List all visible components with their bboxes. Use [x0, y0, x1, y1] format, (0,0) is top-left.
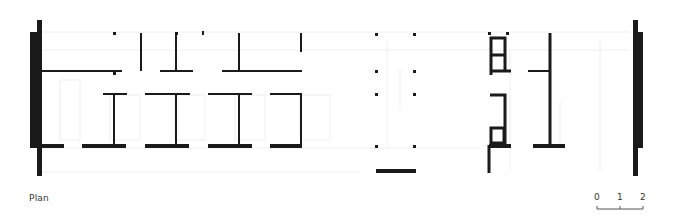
central-column-grid — [375, 33, 416, 173]
left-end-wall — [30, 20, 42, 176]
scale-tick-2: 2 — [640, 192, 646, 202]
upper-column-dots — [113, 31, 204, 75]
floor-plan-drawing — [0, 0, 683, 219]
plan-caption: Plan — [29, 193, 49, 203]
scale-tick-0: 0 — [594, 192, 600, 202]
scale-bar — [597, 206, 643, 209]
lower-facade-wall — [42, 144, 302, 148]
faint-guides — [42, 32, 630, 172]
service-core — [488, 32, 511, 173]
scale-tick-1: 1 — [617, 192, 623, 202]
upper-partitions — [141, 33, 301, 71]
lower-partitions — [103, 94, 301, 146]
right-end-wall — [633, 20, 643, 176]
